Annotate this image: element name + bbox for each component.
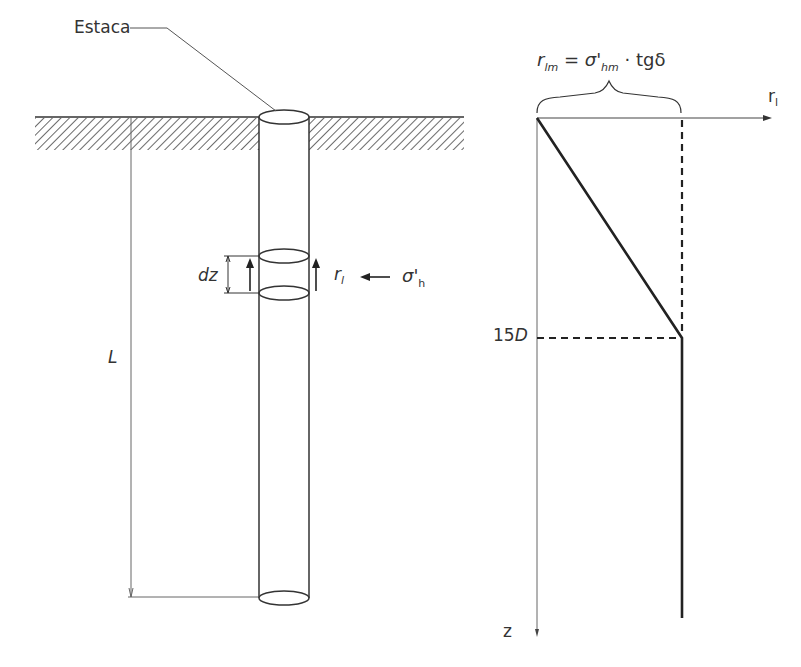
dz-label: dz	[198, 267, 218, 284]
pile-shaft	[259, 110, 309, 605]
length-dimension	[128, 117, 258, 597]
horizontal-stress-label: σ'h	[402, 267, 425, 289]
length-label: L	[108, 349, 117, 366]
dz-dimension	[224, 256, 259, 293]
ground-surface	[35, 117, 464, 150]
formula-brace	[537, 81, 681, 113]
shaft-resistance-label: rl	[334, 266, 344, 286]
z-axis	[535, 118, 539, 637]
critical-depth-label: 15D	[493, 327, 528, 344]
pile-leader-line	[130, 28, 276, 111]
pile-top-ellipse	[259, 110, 309, 124]
formula-label: rlm = σ'hm · tgδ	[537, 51, 665, 73]
pile-diagram-canvas	[0, 0, 801, 667]
rl-axis-label: rl	[768, 88, 778, 108]
pile-label: Estaca	[74, 19, 130, 36]
pile-bottom-ellipse	[259, 591, 309, 605]
z-axis-label: z	[503, 623, 512, 640]
shaft-resistance-profile	[537, 118, 682, 618]
rl-axis	[537, 115, 772, 121]
horizontal-stress-arrow	[360, 273, 390, 281]
